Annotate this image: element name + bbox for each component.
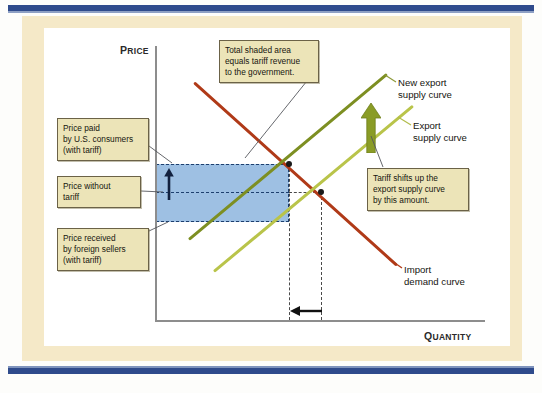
x-axis-label: QUANTITY (424, 326, 471, 344)
callout-price-without-line1: Price without (63, 181, 135, 192)
label-export-supply-curve: Export supply curve (413, 120, 467, 145)
callout-price-paid-line1: Price paid (63, 123, 143, 134)
callout-tariff-revenue-line1: Total shaded area (225, 45, 313, 56)
callout-tariff-shift: Tariff shifts up the export supply curve… (367, 168, 469, 211)
label-export-line2: supply curve (413, 132, 467, 144)
label-new-export-line2: supply curve (398, 89, 452, 101)
callout-tariff-shift-line3: by this amount. (373, 195, 463, 206)
quantity-with-tariff-line (289, 164, 290, 320)
callout-tariff-shift-line1: Tariff shifts up the (373, 173, 463, 184)
leader-price-received (149, 222, 168, 231)
callout-price-received-line1: Price received (63, 233, 143, 244)
price-without-tariff-line (156, 192, 289, 193)
chart-area: PRICE QUANTITY Total shaded area equals … (0, 0, 542, 393)
leader-price-paid (149, 146, 172, 163)
figure-root: PRICE QUANTITY Total shaded area equals … (0, 0, 542, 393)
quantity-decrease-arrow-icon (290, 305, 322, 317)
label-import-demand-curve: Import demand curve (404, 264, 465, 289)
callout-price-without-line2: tariff (63, 192, 135, 203)
label-import-line2: demand curve (404, 276, 465, 288)
supply-shift-arrow-icon (361, 103, 381, 153)
y-axis-label: PRICE (120, 40, 149, 58)
label-export-line1: Export (413, 120, 467, 132)
equilibrium-point-without-tariff (318, 189, 324, 195)
callout-price-paid: Price paid by U.S. consumers (with tarif… (57, 118, 149, 161)
x-axis-label-rest: UANTITY (432, 332, 471, 342)
callout-tariff-revenue-line2: equals tariff revenue (225, 56, 313, 67)
y-axis (155, 46, 157, 321)
label-new-export-line1: New export (398, 77, 452, 89)
quantity-without-tariff-line (321, 192, 322, 320)
callout-price-paid-line3: (with tariff) (63, 145, 143, 156)
callout-tariff-revenue-line3: to the government. (225, 67, 313, 78)
y-axis-label-rest: RICE (127, 46, 149, 56)
callout-price-received: Price received by foreign sellers (with … (57, 228, 149, 271)
callout-tariff-revenue: Total shaded area equals tariff revenue … (219, 40, 319, 83)
bottom-decorative-bar (8, 368, 534, 374)
callout-tariff-shift-line2: export supply curve (373, 184, 463, 195)
label-import-line1: Import (404, 264, 465, 276)
callout-price-received-line3: (with tariff) (63, 255, 143, 266)
equilibrium-point-with-tariff (286, 161, 292, 167)
callout-price-paid-line2: by U.S. consumers (63, 134, 143, 145)
price-increase-arrow-icon (163, 168, 175, 200)
callout-price-without-tariff: Price without tariff (57, 176, 141, 208)
label-new-export-supply-curve: New export supply curve (398, 77, 452, 102)
callout-price-received-line2: by foreign sellers (63, 244, 143, 255)
x-axis (155, 320, 485, 322)
